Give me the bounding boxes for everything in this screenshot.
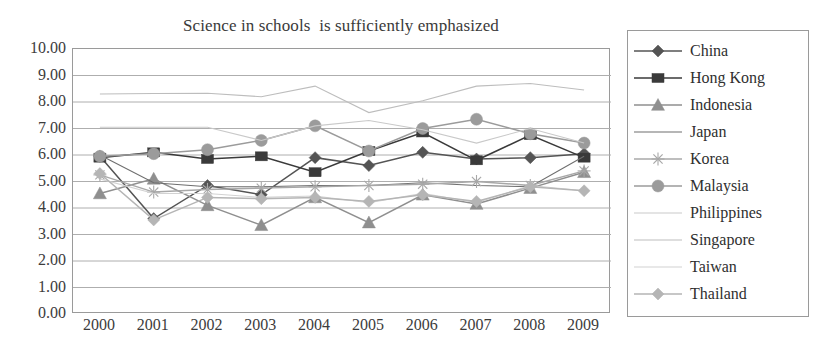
x-axis-labels: 2000200120022003200420052006200720082009	[72, 315, 610, 345]
legend-item-singapore[interactable]: Singapore	[628, 226, 808, 253]
x-axis-tick: 2005	[352, 317, 384, 333]
legend-swatch-japan-icon	[632, 122, 684, 142]
y-axis-tick: 1.00	[4, 279, 66, 295]
x-axis-tick: 2002	[191, 317, 223, 333]
legend-swatch-malaysia-icon	[632, 176, 684, 196]
legend-label: Indonesia	[690, 97, 752, 113]
x-axis-tick: 2009	[567, 317, 599, 333]
legend-item-hong-kong[interactable]: Hong Kong	[628, 64, 808, 91]
legend-swatch-philippines-icon	[632, 203, 684, 223]
legend-label: China	[690, 43, 728, 59]
legend-swatch-indonesia-icon	[632, 95, 684, 115]
y-axis-tick: 2.00	[4, 252, 66, 268]
chart-legend: ChinaHong KongIndonesiaJapanKoreaMalaysi…	[627, 30, 809, 317]
legend-swatch-hong-kong-icon	[632, 68, 684, 88]
plot-svg	[73, 49, 611, 314]
x-axis-tick: 2003	[244, 317, 276, 333]
legend-item-taiwan[interactable]: Taiwan	[628, 253, 808, 280]
y-axis-tick: 4.00	[4, 199, 66, 215]
x-axis-tick: 2006	[406, 317, 438, 333]
y-axis-tick: 10.00	[4, 40, 66, 56]
x-axis-tick: 2008	[513, 317, 545, 333]
legend-item-japan[interactable]: Japan	[628, 118, 808, 145]
y-axis-tick: 3.00	[4, 226, 66, 242]
legend-item-korea[interactable]: Korea	[628, 145, 808, 172]
legend-item-china[interactable]: China	[628, 37, 808, 64]
legend-swatch-china-icon	[632, 41, 684, 61]
chart-title: Science in schools is sufficiently empha…	[72, 16, 610, 36]
legend-swatch-korea-icon	[632, 149, 684, 169]
y-axis-tick: 9.00	[4, 67, 66, 83]
legend-swatch-singapore-icon	[632, 230, 684, 250]
y-axis-tick: 6.00	[4, 146, 66, 162]
series-japan	[100, 155, 584, 187]
y-axis-tick: 7.00	[4, 120, 66, 136]
legend-label: Singapore	[690, 232, 755, 248]
plot-area	[72, 48, 610, 313]
x-axis-tick: 2004	[298, 317, 330, 333]
legend-swatch-thailand-icon	[632, 284, 684, 304]
legend-label: Taiwan	[690, 259, 737, 275]
legend-swatch-taiwan-icon	[632, 257, 684, 277]
x-axis-tick: 2000	[83, 317, 115, 333]
series-thailand	[94, 168, 590, 226]
y-axis-tick: 8.00	[4, 93, 66, 109]
legend-label: Japan	[690, 124, 726, 140]
legend-item-indonesia[interactable]: Indonesia	[628, 91, 808, 118]
legend-label: Korea	[690, 151, 729, 167]
legend-label: Malaysia	[690, 178, 749, 194]
x-axis-tick: 2001	[137, 317, 169, 333]
legend-item-philippines[interactable]: Philippines	[628, 199, 808, 226]
y-axis-tick: 0.00	[4, 305, 66, 321]
y-axis-tick: 5.00	[4, 173, 66, 189]
x-axis-tick: 2007	[460, 317, 492, 333]
y-axis-labels: 10.009.008.007.006.005.004.003.002.001.0…	[0, 0, 66, 349]
legend-label: Thailand	[690, 286, 747, 302]
series-philippines	[100, 121, 584, 144]
legend-item-malaysia[interactable]: Malaysia	[628, 172, 808, 199]
series-singapore	[100, 83, 584, 112]
legend-label: Philippines	[690, 205, 762, 221]
legend-item-thailand[interactable]: Thailand	[628, 280, 808, 307]
line-chart: Science in schools is sufficiently empha…	[0, 0, 815, 349]
series-indonesia	[93, 166, 590, 231]
legend-label: Hong Kong	[690, 70, 765, 86]
